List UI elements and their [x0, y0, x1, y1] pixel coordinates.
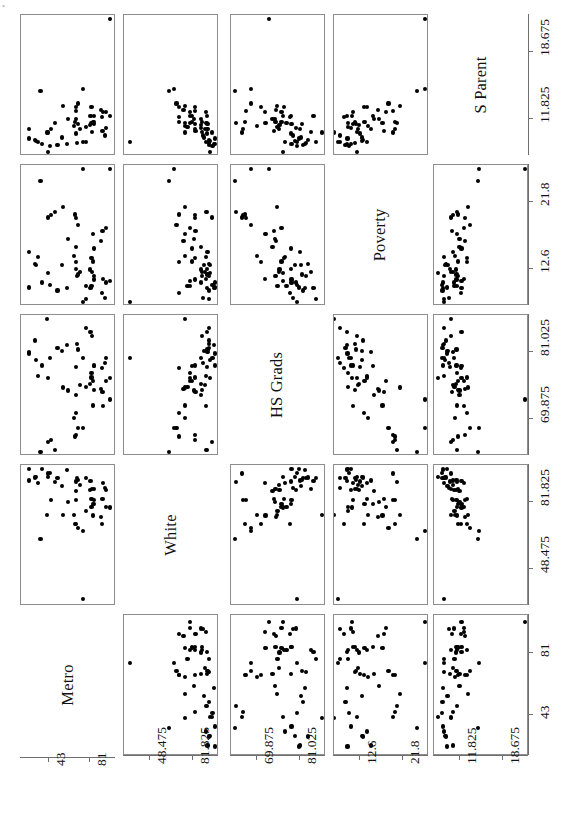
diagonal-label-text: Poverty	[370, 208, 390, 261]
data-point	[193, 375, 197, 379]
data-point	[72, 254, 76, 258]
data-point	[204, 374, 208, 378]
data-point	[523, 167, 527, 171]
right-tick-label: 12.6	[537, 249, 553, 273]
data-point	[84, 125, 88, 129]
data-point	[88, 382, 92, 386]
data-point	[477, 529, 481, 533]
data-point	[450, 632, 454, 636]
data-point	[249, 661, 253, 665]
data-point	[423, 17, 427, 21]
data-point	[202, 694, 206, 698]
data-point	[382, 129, 386, 133]
data-point	[444, 475, 448, 479]
data-point	[60, 484, 64, 488]
data-point	[76, 122, 80, 126]
data-point	[199, 280, 203, 284]
data-point	[92, 246, 96, 250]
data-point	[456, 274, 460, 278]
data-point	[355, 715, 359, 719]
data-point	[465, 411, 469, 415]
data-point	[167, 450, 171, 454]
data-point	[92, 388, 96, 392]
data-point	[463, 216, 467, 220]
data-point	[476, 537, 480, 541]
data-point	[66, 500, 70, 504]
right-tick-label: 48.475	[537, 536, 553, 573]
data-point	[100, 115, 104, 119]
data-point	[255, 513, 259, 517]
scatter-panel-white-vs-s-parent	[433, 464, 528, 605]
data-point	[365, 497, 369, 501]
data-point	[192, 684, 196, 688]
data-point	[89, 375, 93, 379]
data-point	[391, 673, 395, 677]
data-point	[376, 108, 380, 112]
scatter-panel-hs-grads-vs-white	[123, 314, 218, 455]
data-point	[65, 343, 69, 347]
right-tick-label: 81.825	[537, 469, 553, 506]
data-point	[303, 686, 307, 690]
data-point	[353, 141, 357, 145]
data-point	[440, 700, 444, 704]
data-point	[99, 515, 103, 519]
data-point	[244, 673, 248, 677]
data-point	[183, 675, 187, 679]
data-point	[448, 365, 452, 369]
data-point	[441, 280, 445, 284]
data-point	[453, 254, 457, 258]
data-point	[36, 255, 40, 259]
data-point	[84, 140, 88, 144]
data-point	[100, 522, 104, 526]
data-point	[123, 620, 124, 624]
data-point	[314, 476, 318, 480]
data-point	[338, 326, 342, 330]
data-point	[391, 130, 395, 134]
data-point	[53, 448, 57, 452]
data-point	[449, 440, 453, 444]
data-point	[338, 361, 342, 365]
data-point	[92, 277, 96, 281]
data-point	[213, 724, 217, 728]
data-point	[448, 672, 452, 676]
data-point	[294, 488, 298, 492]
data-point	[193, 277, 197, 281]
data-point	[468, 426, 472, 430]
data-point	[351, 110, 355, 114]
data-point	[104, 226, 108, 230]
data-point	[346, 509, 350, 513]
data-point	[391, 109, 395, 113]
data-point	[346, 371, 350, 375]
data-point	[376, 515, 380, 519]
data-point	[259, 105, 263, 109]
diagonal-label-text: HS Grads	[267, 351, 287, 417]
data-point	[33, 475, 37, 479]
data-point	[345, 351, 349, 355]
data-point	[192, 237, 196, 241]
data-point	[365, 648, 369, 652]
data-point	[345, 330, 349, 334]
data-point	[183, 254, 187, 258]
data-point	[108, 376, 112, 380]
data-point	[289, 246, 293, 250]
right-tick	[528, 418, 533, 419]
data-point	[350, 620, 354, 624]
data-point	[75, 342, 79, 346]
data-point	[74, 267, 78, 271]
data-point	[336, 597, 340, 601]
data-point	[281, 475, 285, 479]
data-point	[259, 522, 263, 526]
data-point	[345, 467, 349, 471]
data-point	[193, 673, 197, 677]
data-point	[213, 744, 217, 748]
data-point	[204, 630, 208, 634]
data-point	[74, 365, 78, 369]
data-point	[303, 142, 307, 146]
data-point	[283, 481, 287, 485]
data-point	[365, 729, 369, 733]
data-point	[459, 291, 463, 295]
data-point	[462, 481, 466, 485]
data-point	[452, 626, 456, 630]
data-point	[457, 245, 461, 249]
data-point	[362, 379, 366, 383]
